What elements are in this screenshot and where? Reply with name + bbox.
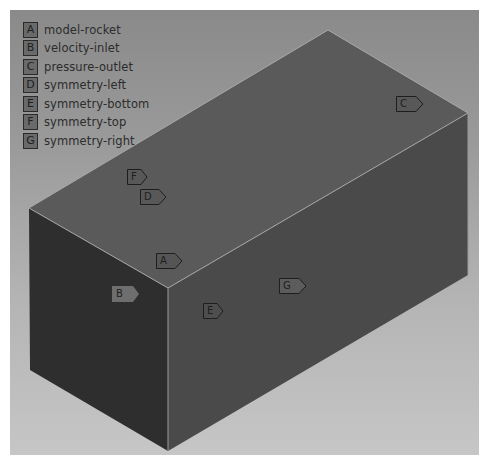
legend-item-velocity-inlet[interactable]: B velocity-inlet [23, 40, 149, 58]
graphics-viewport[interactable]: A model-rocket B velocity-inlet C pressu… [10, 10, 479, 455]
legend-label: model-rocket [44, 23, 121, 37]
tag-key: G [283, 280, 291, 291]
legend-key: D [23, 77, 38, 93]
legend-item-symmetry-left[interactable]: D symmetry-left [23, 77, 149, 95]
tag-g-symmetry-right[interactable]: G [279, 278, 303, 293]
legend-key: A [23, 22, 38, 38]
legend-label: pressure-outlet [44, 60, 133, 74]
tag-key: E [207, 305, 213, 316]
legend-key: E [23, 96, 38, 112]
legend-item-pressure-outlet[interactable]: C pressure-outlet [23, 58, 149, 76]
tag-key: A [160, 255, 167, 266]
legend-label: velocity-inlet [44, 41, 120, 55]
legend-key: C [23, 59, 38, 75]
legend-key: F [23, 114, 38, 130]
tag-e-symmetry-bottom[interactable]: E [203, 303, 227, 318]
tag-key: B [116, 288, 123, 299]
legend-label: symmetry-top [44, 115, 126, 129]
legend-label: symmetry-right [44, 134, 135, 148]
boundary-legend: A model-rocket B velocity-inlet C pressu… [23, 21, 149, 150]
legend-key: G [23, 133, 38, 149]
legend-label: symmetry-bottom [44, 97, 149, 111]
tag-key: C [400, 98, 407, 109]
legend-key: B [23, 40, 38, 56]
tag-c-pressure-outlet[interactable]: C [396, 96, 420, 111]
legend-item-symmetry-bottom[interactable]: E symmetry-bottom [23, 95, 149, 113]
tag-key: D [144, 191, 152, 202]
legend-item-model-rocket[interactable]: A model-rocket [23, 21, 149, 39]
tag-key: F [131, 171, 137, 182]
legend-item-symmetry-right[interactable]: G symmetry-right [23, 132, 149, 150]
tag-b-velocity-inlet[interactable]: B [112, 286, 136, 301]
legend-item-symmetry-top[interactable]: F symmetry-top [23, 114, 149, 132]
tag-f-symmetry-top[interactable]: F [127, 169, 151, 184]
legend-label: symmetry-left [44, 78, 126, 92]
tag-a-model-rocket[interactable]: A [156, 253, 180, 268]
tag-d-symmetry-left[interactable]: D [140, 189, 164, 204]
